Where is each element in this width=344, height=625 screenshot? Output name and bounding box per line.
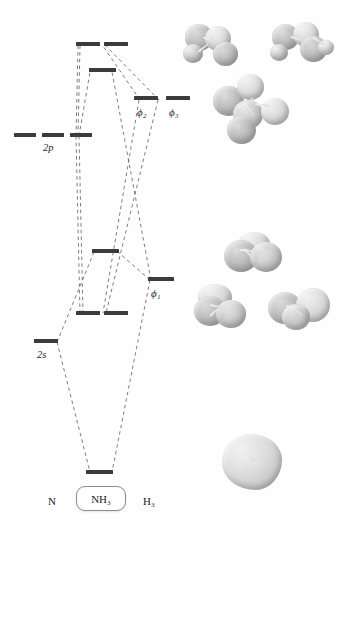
level-mo-bond-a1-lower-bar [86,470,113,474]
label-2p: 2p [43,143,54,154]
orbital-render-bonding-3 [268,288,340,338]
level-mo-antibond-a1-bar [89,68,116,72]
lowest-bonding-orbital [222,432,294,496]
level-mo-antibond-e-bar-2 [104,42,128,46]
antibonding-orbital-set [183,22,341,157]
orbital-render-bonding-1 [224,232,292,284]
orbital-render-bonding-2 [194,284,264,336]
fragment-label-nh3-box: NH₃ [76,486,126,511]
label-phi3: ϕ₃ [169,107,179,118]
level-h3-phi2-bar [134,96,158,100]
fragment-label-n: N [48,496,56,507]
label-phi1: ϕ₁ [151,288,161,299]
label-phi2: ϕ₂ [137,107,147,118]
fragment-label-nh3: NH₃ [91,493,111,505]
fragment-label-h3: H₃ [143,496,155,507]
level-mo-bond-e-bar-2 [104,311,128,315]
level-mo-bond-e-bar-1 [76,311,100,315]
level-h3-phi1-bar [148,277,174,281]
level-n-2p-bar-3 [70,133,92,137]
level-mo-bond-a1-upper-bar [92,249,119,253]
level-n-2p-bar-1 [14,133,36,137]
level-n-2s-bar [34,339,58,343]
orbital-render-lowest-bonding-1 [222,432,294,496]
level-mo-antibond-e-bar-1 [76,42,100,46]
level-n-2p-bar-2 [42,133,64,137]
mo-diagram-figure: 2p 2s ϕ₂ ϕ₃ ϕ₁ N NH₃ H₃ [0,0,344,625]
orbital-render-antibonding-3 [211,74,301,152]
bonding-orbital-set [194,232,344,360]
orbital-render-antibonding-2 [268,22,338,80]
label-2s: 2s [37,350,46,361]
